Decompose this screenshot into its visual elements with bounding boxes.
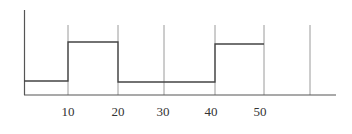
x-tick-label-40: 40	[205, 104, 218, 119]
step-chart: 10 20 30 40 50	[0, 0, 352, 134]
x-tick-label-20: 20	[112, 104, 125, 119]
step-series-line	[24, 42, 264, 82]
x-tick-labels: 10 20 30 40 50	[62, 104, 267, 119]
gridlines	[68, 25, 310, 95]
x-tick-label-10: 10	[62, 104, 75, 119]
x-tick-label-50: 50	[254, 104, 267, 119]
x-tick-label-30: 30	[157, 104, 170, 119]
